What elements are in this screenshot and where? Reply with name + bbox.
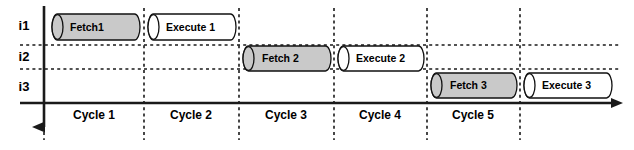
stage-label-fetch-2: Fetch 2 [262, 52, 299, 64]
cycle-label-4: Cycle 4 [359, 108, 401, 122]
row-label-i2: i2 [19, 49, 30, 64]
row-label-group: i1i2i3 [19, 18, 30, 94]
pipeline-diagram-canvas: i1i2i3 Fetch1Execute 1Fetch 2Execute 2Fe… [0, 0, 634, 150]
cycle-label-3: Cycle 3 [265, 108, 307, 122]
stage-fetch-1[interactable]: Fetch1 [52, 14, 140, 40]
stage-label-execute-2: Execute 2 [356, 52, 405, 64]
pipeline-diagram: i1i2i3 Fetch1Execute 1Fetch 2Execute 2Fe… [0, 0, 634, 150]
stage-label-fetch-1: Fetch1 [70, 21, 104, 33]
stage-cap-fetch-3 [431, 74, 442, 98]
stage-label-fetch-3: Fetch 3 [450, 79, 487, 91]
cycle-label-1: Cycle 1 [73, 108, 115, 122]
stage-execute-2[interactable]: Execute 2 [338, 46, 424, 71]
cycle-label-2: Cycle 2 [170, 108, 212, 122]
cycle-label-group: Cycle 1Cycle 2Cycle 3Cycle 4Cycle 5 [73, 108, 494, 122]
stage-group: Fetch1Execute 1Fetch 2Execute 2Fetch 3Ex… [52, 14, 612, 98]
cycle-label-5: Cycle 5 [452, 108, 494, 122]
row-label-i1: i1 [19, 18, 30, 33]
stage-cap-execute-1 [148, 15, 159, 40]
stage-cap-fetch-2 [243, 47, 254, 71]
stage-cap-execute-2 [338, 47, 349, 71]
stage-fetch-2[interactable]: Fetch 2 [243, 46, 331, 71]
stage-label-execute-3: Execute 3 [542, 79, 591, 91]
stage-execute-3[interactable]: Execute 3 [524, 73, 612, 98]
stage-label-execute-1: Execute 1 [166, 21, 215, 33]
stage-execute-1[interactable]: Execute 1 [148, 14, 236, 40]
stage-cap-execute-3 [524, 74, 535, 98]
row-label-i3: i3 [19, 79, 30, 94]
stage-cap-fetch-1 [52, 15, 63, 40]
stage-fetch-3[interactable]: Fetch 3 [431, 73, 517, 98]
